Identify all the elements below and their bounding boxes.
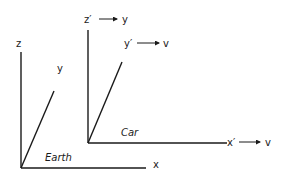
earth-x-label: x	[153, 159, 159, 170]
earth-y-label: y	[57, 63, 63, 74]
car-x-maps-to: v	[265, 137, 271, 148]
car-y-axis	[88, 62, 122, 143]
car-x-label: x′	[227, 137, 236, 148]
car-frame-name: Car	[121, 127, 139, 138]
car-z-label: z′	[84, 14, 92, 25]
earth-frame-name: Earth	[45, 152, 72, 163]
earth-z-label: z	[16, 38, 21, 49]
car-z-maps-to: y	[122, 14, 128, 25]
reference-frames-diagram: z y x Earth z′ y y′ v x′ v Car	[0, 0, 287, 179]
car-y-maps-to: v	[163, 38, 169, 49]
car-y-label: y′	[124, 38, 133, 49]
car-frame: z′ y y′ v x′ v Car	[84, 14, 271, 148]
